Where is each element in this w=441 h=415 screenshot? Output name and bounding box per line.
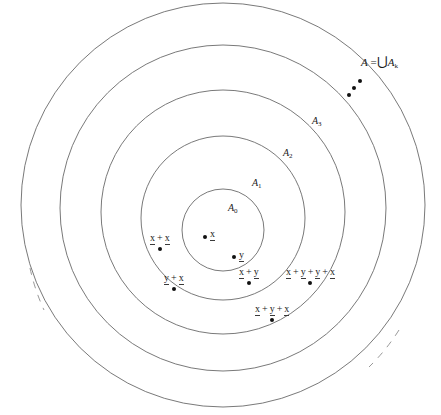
circle-A2 (101, 90, 345, 334)
set-label-A0: A0 (228, 203, 238, 213)
ellipsis-dot-1 (347, 93, 351, 97)
point-dot-x (203, 235, 207, 239)
union-label: A =⋃Ak (361, 55, 398, 68)
term-x-plus-y-plus-y-plus-x: x+y+y+x (286, 266, 335, 285)
term-dot (270, 318, 274, 322)
set-label-A2: A2 (283, 148, 293, 158)
arc-left-dashed (30, 268, 44, 310)
circle-A3 (60, 45, 386, 371)
circle-A0 (182, 189, 264, 271)
term-dot (158, 247, 162, 251)
figure-canvas: A0 A1 A2 A3 A =⋃Ak x y x+x y+x (0, 0, 441, 415)
set-label-A3: A3 (312, 116, 322, 126)
generator-label-y: y (239, 249, 244, 262)
term-dot (247, 281, 251, 285)
term-x-plus-x: x+x (150, 232, 170, 251)
set-label-A1: A1 (252, 178, 262, 188)
term-dot (172, 287, 176, 291)
ellipsis-dot-3 (358, 79, 362, 83)
ellipsis-dot-2 (352, 86, 356, 90)
term-y-plus-x: y+x (164, 272, 184, 291)
term-dot (308, 281, 312, 285)
generator-label-x: x (210, 228, 215, 241)
arc-right-dashed (369, 330, 399, 367)
term-x-plus-y: x+y (239, 266, 259, 285)
term-x-plus-y-plus-x: x+y+x (255, 303, 289, 322)
point-dot-y (232, 255, 236, 259)
